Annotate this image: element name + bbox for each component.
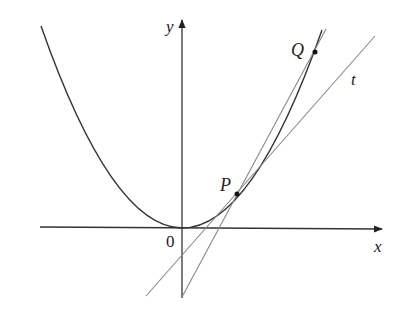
y-axis-label: y (164, 17, 174, 36)
x-axis-label: x (373, 237, 382, 256)
x-axis (40, 227, 382, 229)
diagram-canvas: y x 0 P Q t (0, 0, 404, 310)
point-p-label: P (219, 175, 231, 195)
point-q-label: Q (291, 40, 304, 60)
point-q (313, 50, 318, 55)
tangent-label-t: t (351, 70, 357, 89)
tangent-line-t (146, 36, 375, 296)
point-p (235, 192, 240, 197)
secant-line-pq (182, 29, 326, 297)
origin-label: 0 (166, 232, 175, 251)
